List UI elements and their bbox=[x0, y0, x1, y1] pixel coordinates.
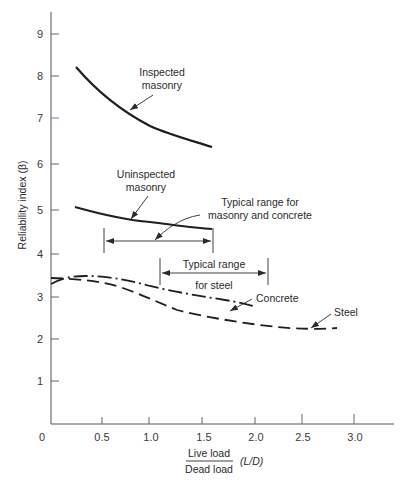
y-tick-labels: 1 2 3 4 5 6 7 8 9 bbox=[37, 28, 43, 387]
svg-text:masonry: masonry bbox=[126, 181, 167, 193]
y-ticks bbox=[51, 34, 59, 381]
reliability-chart: 1 2 3 4 5 6 7 8 9 0 0.5 1.0 1.5 2.0 2.5 … bbox=[0, 0, 411, 489]
x-axis-title-denominator: Dead load bbox=[185, 463, 233, 475]
svg-text:for steel: for steel bbox=[195, 279, 232, 291]
annotation-concrete: Concrete bbox=[230, 292, 299, 311]
annotation-range-masonry-concrete: Typical range for masonry and concrete bbox=[104, 196, 312, 253]
annotation-steel: Steel bbox=[311, 306, 358, 328]
x-tick-label: 1.5 bbox=[196, 431, 211, 443]
x-tick-label: 1.0 bbox=[143, 431, 158, 443]
y-tick-label: 3 bbox=[37, 291, 43, 303]
x-tick-labels: 0 0.5 1.0 1.5 2.0 2.5 3.0 bbox=[39, 431, 363, 443]
y-axis-title: Reliability index (β) bbox=[16, 161, 28, 250]
svg-text:Concrete: Concrete bbox=[256, 292, 299, 304]
x-tick-label: 2.5 bbox=[295, 431, 310, 443]
y-tick-label: 1 bbox=[37, 375, 43, 387]
svg-text:Typical range for: Typical range for bbox=[221, 196, 299, 208]
series-uninspected-masonry bbox=[75, 207, 212, 229]
y-tick-label: 8 bbox=[37, 70, 43, 82]
y-tick-label: 5 bbox=[37, 204, 43, 216]
svg-text:masonry: masonry bbox=[142, 79, 183, 91]
y-tick-label: 4 bbox=[37, 248, 43, 260]
x-tick-label: 0 bbox=[39, 431, 45, 443]
annotation-uninspected-masonry: Uninspected masonry bbox=[117, 168, 176, 219]
annotation-inspected-masonry: Inspected masonry bbox=[130, 66, 185, 110]
svg-text:Uninspected: Uninspected bbox=[117, 168, 176, 180]
annotation-range-steel: Typical range for steel bbox=[160, 258, 268, 291]
svg-text:Steel: Steel bbox=[334, 306, 358, 318]
y-tick-label: 7 bbox=[37, 112, 43, 124]
x-tick-label: 3.0 bbox=[347, 431, 362, 443]
svg-text:masonry and concrete: masonry and concrete bbox=[208, 209, 312, 221]
svg-text:Inspected: Inspected bbox=[139, 66, 185, 78]
x-axis-title-numerator: Live load bbox=[188, 447, 230, 459]
y-tick-label: 9 bbox=[37, 28, 43, 40]
y-tick-label: 2 bbox=[37, 333, 43, 345]
svg-text:Typical range: Typical range bbox=[183, 258, 246, 270]
y-tick-label: 6 bbox=[37, 158, 43, 170]
x-axis-title-suffix: (L/D) bbox=[240, 455, 263, 467]
x-ticks bbox=[102, 414, 354, 424]
x-tick-label: 2.0 bbox=[248, 431, 263, 443]
x-tick-label: 0.5 bbox=[94, 431, 109, 443]
